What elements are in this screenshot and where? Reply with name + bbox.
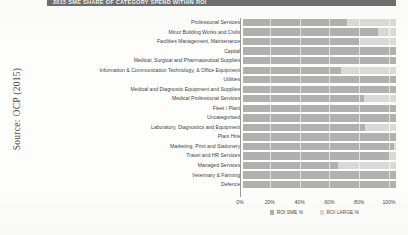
category-label: Facilities Management, Maintenance [56, 37, 243, 46]
bar-track [243, 171, 396, 178]
bar-segment-large [390, 152, 396, 159]
bar-segment-sme [243, 114, 396, 121]
chart-row: Defence [56, 180, 396, 189]
x-tick-label: 0% [236, 199, 243, 205]
bar-track [243, 19, 396, 26]
category-label: Plant Hire [56, 132, 243, 141]
legend-swatch-icon [270, 210, 274, 214]
chart-row: Managed Services [56, 161, 396, 170]
stacked-bar-chart: Professional ServicesMinor Building Work… [56, 18, 396, 223]
bar-segment-sme [243, 28, 378, 35]
bar-segment-large [338, 162, 396, 169]
bar-segment-sme [243, 105, 396, 112]
y-axis-line [240, 18, 241, 197]
bar-track [243, 143, 396, 150]
chart-row: Medical Professional Services [56, 94, 396, 103]
category-label: Capital [56, 47, 243, 56]
bar-segment-large [365, 124, 396, 131]
bar-track [243, 162, 396, 169]
bar-segment-sme [243, 95, 364, 102]
bar-segment-sme [243, 143, 394, 150]
bar-segment-sme [243, 124, 365, 131]
bar-track [243, 95, 396, 102]
bar-track [243, 67, 396, 74]
chart-row: Utilities [56, 75, 396, 84]
bar-segment-sme [243, 171, 396, 178]
category-label: Medical, Surgical and Pharmaceutical Sup… [56, 56, 243, 65]
category-label: Information & Communication Technology, … [56, 66, 243, 75]
category-label: Defence [56, 180, 243, 189]
bar-segment-sme [243, 152, 390, 159]
bar-segment-large [378, 28, 396, 35]
bar-track [243, 152, 396, 159]
category-label: Professional Services [56, 18, 243, 27]
bar-track [243, 28, 396, 35]
bar-track [243, 133, 396, 140]
category-label: Veterinary & Farming [56, 171, 243, 180]
category-label: Minor Building Works and Civils [56, 28, 243, 37]
chart-row: Facilities Management, Maintenance [56, 37, 396, 46]
x-tick-label: 100% [382, 199, 395, 205]
bar-track [243, 105, 396, 112]
x-tick-label: 80% [354, 199, 364, 205]
bar-segment-sme [243, 47, 396, 54]
legend-item[interactable]: ROI SME % [270, 210, 303, 215]
chart-rows: Professional ServicesMinor Building Work… [56, 18, 396, 190]
bar-segment-sme [243, 57, 396, 64]
bar-track [243, 181, 396, 188]
chart-row: Information & Communication Technology, … [56, 66, 396, 75]
category-label: Managed Services [56, 161, 243, 170]
bar-segment-large [359, 38, 396, 45]
bar-segment-sme [243, 38, 359, 45]
bar-track [243, 47, 396, 54]
bar-track [243, 114, 396, 121]
chart-row: Marketing, Print and Stationery [56, 142, 396, 151]
chart-row: Plant Hire [56, 132, 396, 141]
legend-label: ROI SME % [277, 210, 303, 215]
category-label: Utilities [56, 75, 243, 84]
chart-row: Medical and Diagnostic Equipment and Sup… [56, 85, 396, 94]
bar-segment-sme [243, 86, 396, 93]
bar-segment-large [364, 95, 396, 102]
bar-segment-sme [243, 133, 396, 140]
page-title: 2015 SME SHARE OF CATEGORY SPEND WITHIN … [47, 0, 396, 5]
bar-track [243, 76, 396, 83]
chart-row: Medical, Surgical and Pharmaceutical Sup… [56, 56, 396, 65]
chart-row: Laboratory, Diagnostics and Equipment [56, 123, 396, 132]
legend-item[interactable]: ROI LARGE % [320, 210, 359, 215]
bar-track [243, 57, 396, 64]
category-label: Medical and Diagnostic Equipment and Sup… [56, 85, 243, 94]
chart-row: Professional Services [56, 18, 396, 27]
x-tick-label: 20% [265, 199, 275, 205]
chart-row: Fleet / Plant [56, 104, 396, 113]
category-label: Medical Professional Services [56, 94, 243, 103]
category-label: Uncategorised [56, 113, 243, 122]
bar-segment-sme [243, 19, 347, 26]
category-label: Laboratory, Diagnostics and Equipment [56, 123, 243, 132]
legend-swatch-icon [320, 210, 324, 214]
bar-segment-sme [243, 181, 396, 188]
chart-row: Veterinary & Farming [56, 171, 396, 180]
category-label: Fleet / Plant [56, 104, 243, 113]
bar-track [243, 38, 396, 45]
legend-label: ROI LARGE % [327, 210, 359, 215]
chart-legend: ROI SME %ROI LARGE % [240, 210, 389, 215]
bar-segment-large [347, 19, 396, 26]
x-axis-ticks: 0%20%40%60%80%100% [240, 199, 389, 209]
bar-segment-large [341, 67, 396, 74]
chart-row: Capital [56, 47, 396, 56]
bar-segment-sme [243, 67, 341, 74]
chart-row: Travel and HR Services [56, 151, 396, 160]
x-tick-label: 60% [324, 199, 334, 205]
bar-segment-sme [243, 162, 338, 169]
bar-segment-large [394, 143, 396, 150]
chart-row: Uncategorised [56, 113, 396, 122]
bar-segment-sme [243, 76, 396, 83]
source-caption: Source: OCP (2015) [12, 66, 22, 152]
document-title-band: 2015 SME SHARE OF CATEGORY SPEND WITHIN … [47, 0, 396, 6]
x-tick-label: 40% [294, 199, 304, 205]
bar-track [243, 86, 396, 93]
bar-track [243, 124, 396, 131]
category-label: Marketing, Print and Stationery [56, 142, 243, 151]
category-label: Travel and HR Services [56, 151, 243, 160]
